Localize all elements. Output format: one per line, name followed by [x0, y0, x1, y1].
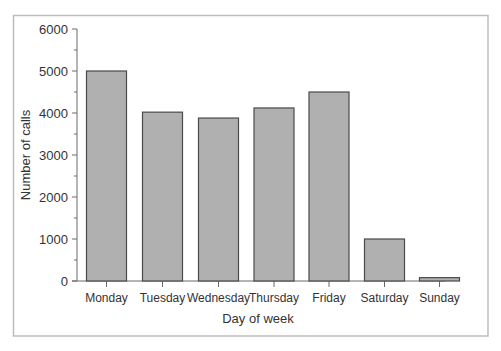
- y-tick-label: 5000: [39, 64, 68, 79]
- y-tick-label: 2000: [39, 190, 68, 205]
- bar-thursday: [254, 108, 294, 281]
- y-axis-label: Number of calls: [18, 109, 33, 200]
- bar-sunday: [420, 278, 460, 281]
- bar-monday: [87, 71, 127, 281]
- y-tick-label: 4000: [39, 106, 68, 121]
- bar-friday: [309, 92, 349, 281]
- chart-frame: [14, 16, 489, 337]
- y-tick-label: 1000: [39, 232, 68, 247]
- bar-chart: 0100020003000400050006000MondayTuesdayWe…: [0, 0, 501, 351]
- bar-saturday: [365, 239, 405, 281]
- x-axis-label: Day of week: [222, 311, 294, 326]
- x-tick-label: Thursday: [249, 291, 299, 305]
- x-tick-label: Saturday: [360, 291, 408, 305]
- x-tick-label: Wednesday: [187, 291, 250, 305]
- bar-wednesday: [199, 118, 239, 281]
- x-tick-label: Tuesday: [140, 291, 186, 305]
- x-tick-label: Sunday: [419, 291, 460, 305]
- x-tick-label: Friday: [312, 291, 345, 305]
- y-tick-label: 6000: [39, 22, 68, 37]
- y-tick-label: 3000: [39, 148, 68, 163]
- bar-tuesday: [143, 112, 183, 281]
- bars: [87, 71, 460, 281]
- y-tick-label: 0: [61, 274, 68, 289]
- x-tick-label: Monday: [85, 291, 128, 305]
